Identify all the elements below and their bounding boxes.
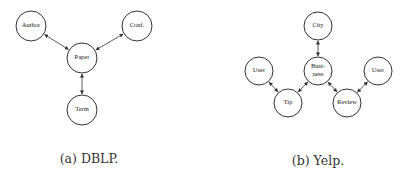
node-label: ness xyxy=(312,70,324,77)
dblp-caption: (a) DBLP. xyxy=(60,151,119,166)
node-business: Busi-ness xyxy=(304,57,332,85)
node-user1: User xyxy=(245,57,273,85)
node-review: Review xyxy=(333,89,361,117)
edge-business-review xyxy=(328,82,337,92)
node-label: Paper xyxy=(75,53,91,60)
node-term: Term xyxy=(67,95,97,125)
node-paper: Paper xyxy=(67,43,97,73)
edge-conf-paper xyxy=(96,34,123,50)
node-label: Review xyxy=(337,98,357,105)
node-conf: Conf. xyxy=(122,11,152,41)
node-city: City xyxy=(304,12,332,40)
edge-author-paper xyxy=(45,35,69,50)
dblp-schema-graph: AuthorConf.PaperTerm xyxy=(16,11,152,125)
node-label: Tip xyxy=(284,98,293,105)
edge-review-user2 xyxy=(357,82,367,92)
node-label: City xyxy=(312,21,324,28)
node-label: Conf. xyxy=(130,21,145,28)
node-label: Author xyxy=(22,21,41,28)
node-label: Busi- xyxy=(311,62,325,69)
node-tip: Tip xyxy=(274,89,302,117)
yelp-caption: (b) Yelp. xyxy=(292,153,344,168)
node-user2: User xyxy=(364,57,392,85)
node-label: Term xyxy=(75,105,89,112)
node-author: Author xyxy=(16,11,46,41)
node-label: User xyxy=(372,66,385,73)
yelp-schema-graph: CityBusi-nessUserTipReviewUser xyxy=(245,12,392,117)
edge-tip-business xyxy=(298,82,307,92)
edge-user1-tip xyxy=(269,82,278,92)
node-label: User xyxy=(253,66,266,73)
